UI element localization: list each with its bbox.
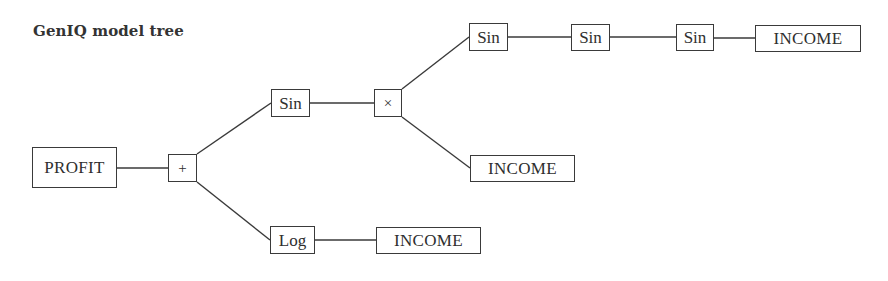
node-sin-top-1: Sin bbox=[469, 23, 508, 51]
node-plus-operator: + bbox=[168, 154, 197, 182]
node-income-mid: INCOME bbox=[470, 155, 575, 182]
edge-plus-sin bbox=[197, 103, 271, 154]
edge-plus-log bbox=[197, 182, 270, 240]
node-log: Log bbox=[270, 226, 315, 254]
node-sin-top-3: Sin bbox=[676, 24, 714, 51]
edge-times-sin bbox=[402, 37, 469, 89]
node-income-top: INCOME bbox=[755, 25, 861, 52]
edge-times-income bbox=[402, 117, 470, 168]
node-sin-top-2: Sin bbox=[571, 24, 610, 51]
node-income-bottom: INCOME bbox=[376, 227, 481, 254]
node-profit: PROFIT bbox=[32, 147, 117, 188]
node-times-operator: × bbox=[374, 89, 402, 117]
node-sin-mid: Sin bbox=[271, 89, 310, 117]
